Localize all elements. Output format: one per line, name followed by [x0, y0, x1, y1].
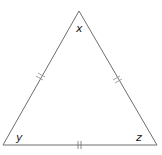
triangle-diagram: x y z — [0, 0, 162, 155]
vertex-label-z: z — [135, 131, 142, 144]
vertex-label-y: y — [15, 131, 23, 144]
vertex-label-x: x — [75, 22, 83, 35]
